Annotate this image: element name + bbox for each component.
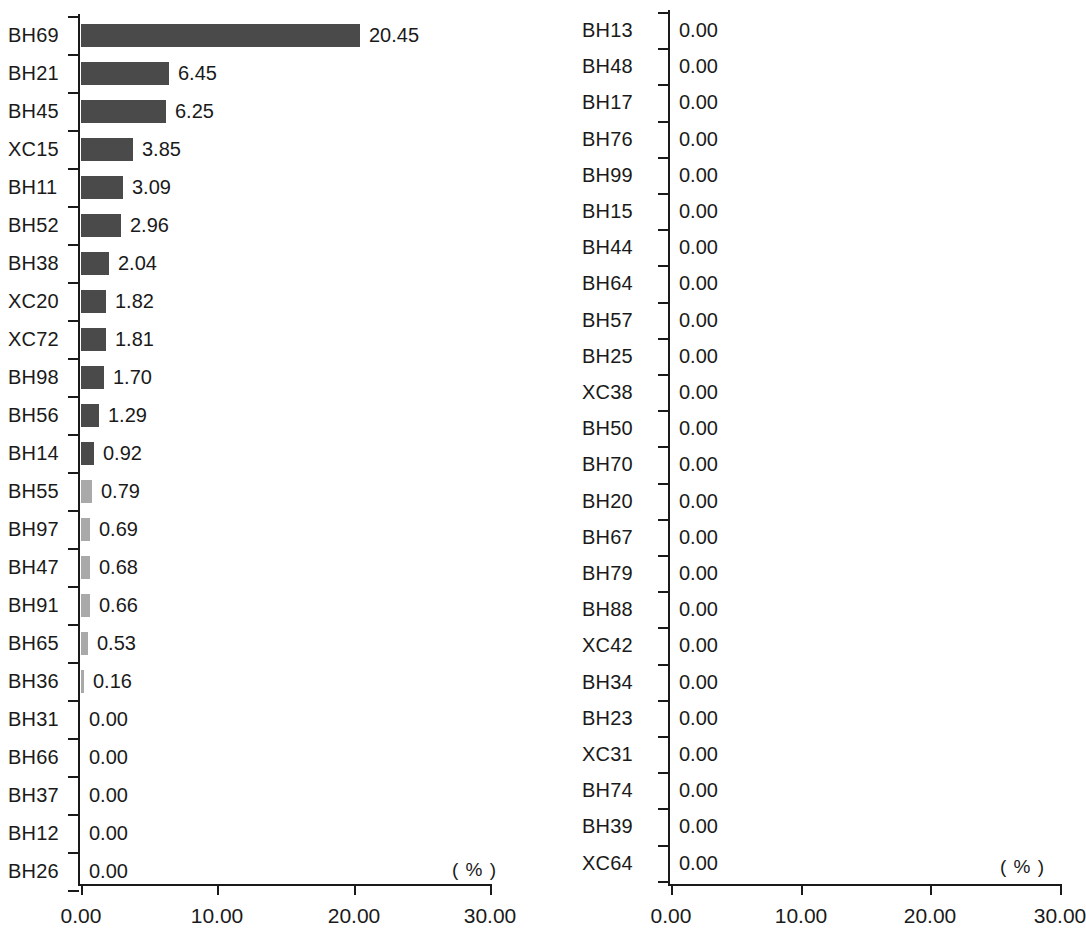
chart-row: BH470.68 [0,548,545,586]
y-axis-tick [68,890,79,892]
bar-value-label: 0.00 [679,346,718,366]
chart-row: BH660.00 [0,738,545,776]
category-label: BH26 [8,861,80,881]
x-axis-tick-label: 0.00 [651,905,692,926]
category-label: XC38 [582,382,654,402]
category-label: BH65 [8,633,80,653]
bar-value-label: 0.00 [89,823,128,843]
x-axis-tick-label: 30.00 [464,905,517,926]
bar-value-label: 0.00 [679,599,718,619]
category-label: BH47 [8,557,80,577]
bar [81,24,360,47]
bar-and-value: 0.00 [671,157,718,193]
bar-and-value: 3.09 [81,168,171,206]
bar-value-label: 0.00 [679,563,718,583]
category-label: BH14 [8,443,80,463]
category-label: BH70 [582,454,654,474]
bar-and-value: 0.00 [671,700,718,736]
chart-row: BH200.00 [560,483,1085,519]
bar-and-value: 0.00 [671,338,718,374]
bar-value-label: 1.29 [108,405,147,425]
bar-and-value: 1.81 [81,320,154,358]
bar-and-value: 2.96 [81,206,169,244]
category-label: BH11 [8,177,80,197]
chart-row: BH170.00 [560,84,1085,120]
chart-row: BH670.00 [560,519,1085,555]
chart-row: BH500.00 [560,410,1085,446]
x-axis-tick-label: 20.00 [904,905,957,926]
category-label: BH76 [582,129,654,149]
bar-and-value: 0.79 [81,472,140,510]
x-axis-tick [1060,884,1062,895]
bar-and-value: 0.16 [81,662,132,700]
x-axis-tick [354,884,356,895]
bar-and-value: 0.68 [81,548,138,586]
bar-value-label: 0.00 [679,672,718,692]
category-label: BH25 [582,346,654,366]
bar [81,214,121,237]
chart-row: BH760.00 [560,121,1085,157]
chart-row: BH880.00 [560,591,1085,627]
chart-row: XC310.00 [560,736,1085,772]
category-label: BH64 [582,273,654,293]
category-label: BH88 [582,599,654,619]
chart-row: BH230.00 [560,700,1085,736]
x-axis-tick-label: 20.00 [328,905,381,926]
chart-row: BH990.00 [560,157,1085,193]
bar [81,252,109,275]
category-label: BH15 [582,201,654,221]
category-label: BH12 [8,823,80,843]
chart-row: BH740.00 [560,772,1085,808]
category-label: BH79 [582,563,654,583]
chart-row: BH120.00 [0,814,545,852]
bar-value-label: 0.00 [679,201,718,221]
bar-and-value: 0.00 [671,84,718,120]
bar-and-value: 0.69 [81,510,138,548]
chart-row: BH981.70 [0,358,545,396]
category-label: BH99 [582,165,654,185]
category-label: BH66 [8,747,80,767]
bar-value-label: 0.16 [93,671,132,691]
category-label: BH45 [8,101,80,121]
bar [81,100,166,123]
bar-and-value: 0.00 [671,664,718,700]
category-label: BH37 [8,785,80,805]
bar-and-value: 0.00 [671,446,718,482]
bar-and-value: 3.85 [81,130,181,168]
chart-row: XC153.85 [0,130,545,168]
bar-value-label: 0.00 [89,747,128,767]
bar-value-label: 0.00 [679,382,718,402]
category-label: BH56 [8,405,80,425]
bar-value-label: 2.04 [118,253,157,273]
category-label: BH17 [582,92,654,112]
bar-value-label: 0.53 [97,633,136,653]
bar-value-label: 6.45 [178,63,217,83]
chart-row: BH456.25 [0,92,545,130]
bar-value-label: 0.00 [679,744,718,764]
category-label: BH38 [8,253,80,273]
right-chart-panel: BH130.00BH480.00BH170.00BH760.00BH990.00… [560,0,1085,931]
chart-row: BH790.00 [560,555,1085,591]
chart-row: BH250.00 [560,338,1085,374]
chart-row: BH216.45 [0,54,545,92]
category-label: XC64 [582,853,654,873]
category-label: BH21 [8,63,80,83]
chart-row: BH640.00 [560,265,1085,301]
chart-row: BH650.53 [0,624,545,662]
x-axis-tick [217,884,219,895]
bar-and-value: 0.00 [671,302,718,338]
bar-value-label: 0.00 [89,861,128,881]
x-axis-tick [930,884,932,895]
bar-and-value: 0.00 [671,519,718,555]
chart-row: XC420.00 [560,627,1085,663]
bar-value-label: 0.00 [679,310,718,330]
bar [81,138,133,161]
chart-row: BH340.00 [560,664,1085,700]
bar-value-label: 0.00 [679,418,718,438]
bar-and-value: 0.00 [81,700,128,738]
bar-and-value: 0.00 [671,410,718,446]
bar [81,518,90,541]
x-axis-tick [81,884,83,895]
bar-value-label: 3.85 [142,139,181,159]
bar [81,670,84,693]
